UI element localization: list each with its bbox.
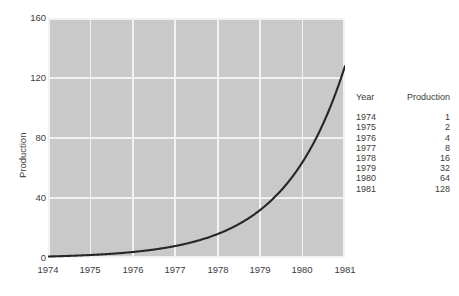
horizontal-gridlines <box>48 19 345 257</box>
cell-production: 4 <box>394 133 450 143</box>
cell-year: 1977 <box>356 143 394 153</box>
cell-production: 64 <box>394 173 450 183</box>
y-tick-label-120: 120 <box>6 73 46 83</box>
table-row: 1981128 <box>356 184 452 194</box>
table-row: 19741 <box>356 112 452 122</box>
column-header-production: Production <box>394 92 450 102</box>
cell-production: 32 <box>394 163 450 173</box>
cell-production: 16 <box>394 153 450 163</box>
cell-year: 1978 <box>356 153 394 163</box>
table-row: 198064 <box>356 173 452 183</box>
table-row: 197816 <box>356 153 452 163</box>
plot-area <box>48 18 345 258</box>
x-tick-label-1981: 1981 <box>322 264 368 275</box>
table-row: 19778 <box>356 143 452 153</box>
cell-production: 128 <box>394 184 450 194</box>
production-data-table: Year Production 197411975219764197781978… <box>356 92 452 194</box>
cell-production: 8 <box>394 143 450 153</box>
chart-canvas <box>48 18 345 258</box>
y-tick-label-0: 0 <box>6 253 46 263</box>
table-header-row: Year Production <box>356 92 452 102</box>
y-tick-label-160: 160 <box>6 13 46 23</box>
cell-year: 1975 <box>356 122 394 132</box>
cell-production: 1 <box>394 112 450 122</box>
x-tick-label-1974: 1974 <box>25 264 71 275</box>
x-tick-label-1977: 1977 <box>152 264 198 275</box>
cell-year: 1974 <box>356 112 394 122</box>
y-tick-label-40: 40 <box>6 193 46 203</box>
table-row: 197932 <box>356 163 452 173</box>
cell-year: 1979 <box>356 163 394 173</box>
x-tick-label-1976: 1976 <box>110 264 156 275</box>
table-row: 19752 <box>356 122 452 132</box>
x-tick-label-1975: 1975 <box>67 264 113 275</box>
table-row: 19764 <box>356 133 452 143</box>
table-body: 1974119752197641977819781619793219806419… <box>356 112 452 194</box>
x-tick-label-1979: 1979 <box>237 264 283 275</box>
cell-year: 1980 <box>356 173 394 183</box>
production-curve <box>48 66 345 257</box>
production-growth-figure: Production 160 120 80 40 0 <box>0 0 459 296</box>
x-tick-label-1980: 1980 <box>279 264 325 275</box>
x-tick-label-1978: 1978 <box>195 264 241 275</box>
cell-year: 1981 <box>356 184 394 194</box>
column-header-year: Year <box>356 92 394 102</box>
cell-year: 1976 <box>356 133 394 143</box>
cell-production: 2 <box>394 122 450 132</box>
y-tick-label-80: 80 <box>6 133 46 143</box>
